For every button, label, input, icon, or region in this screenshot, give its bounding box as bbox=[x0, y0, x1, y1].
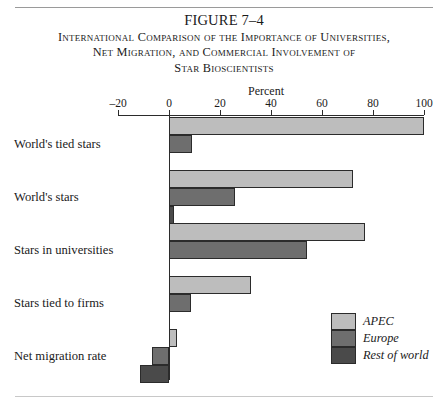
x-tick-label-6: 100 bbox=[415, 97, 432, 109]
category-label-3: Stars tied to firms bbox=[14, 296, 104, 311]
bar-apec-4 bbox=[169, 329, 177, 347]
x-tick-label-5: 80 bbox=[367, 97, 379, 109]
x-tick-label-3: 40 bbox=[265, 97, 277, 109]
x-tick-0 bbox=[118, 110, 119, 115]
x-axis-line bbox=[118, 115, 424, 116]
bar-europe-2 bbox=[169, 241, 307, 259]
bar-row-1 bbox=[169, 206, 174, 224]
legend-swatch-apec bbox=[331, 313, 356, 330]
x-tick-5 bbox=[373, 110, 374, 115]
bar-europe-1 bbox=[169, 188, 235, 206]
bar-europe-0 bbox=[169, 135, 192, 153]
legend-label-europe: Europe bbox=[363, 331, 399, 346]
category-label-0: World's tied stars bbox=[14, 137, 101, 152]
legend-label-apec: APEC bbox=[363, 314, 394, 329]
bar-europe-3 bbox=[169, 294, 191, 312]
legend-swatch-europe bbox=[331, 330, 356, 347]
bar-apec-1 bbox=[169, 170, 353, 188]
bar-apec-0 bbox=[169, 117, 424, 135]
x-tick-2 bbox=[220, 110, 221, 115]
x-tick-3 bbox=[271, 110, 272, 115]
category-label-1: World's stars bbox=[14, 190, 79, 205]
legend-label-rest-of-world: Rest of world bbox=[363, 348, 429, 363]
x-tick-1 bbox=[169, 110, 170, 115]
x-tick-label-0: –20 bbox=[109, 97, 126, 109]
x-tick-label-2: 20 bbox=[214, 97, 226, 109]
bar-row-4 bbox=[140, 365, 169, 383]
x-tick-6 bbox=[424, 110, 425, 115]
x-axis-title: Percent bbox=[42, 84, 448, 99]
bar-apec-2 bbox=[169, 223, 365, 241]
x-tick-4 bbox=[322, 110, 323, 115]
bar-europe-4 bbox=[152, 347, 169, 365]
category-label-4: Net migration rate bbox=[14, 349, 106, 364]
bar-apec-3 bbox=[169, 276, 251, 294]
chart-legend: APEC Europe Rest of world bbox=[331, 313, 429, 364]
x-tick-label-4: 60 bbox=[316, 97, 328, 109]
category-label-2: Stars in universities bbox=[14, 243, 113, 258]
x-tick-label-1: 0 bbox=[166, 97, 172, 109]
legend-swatch-rest-of-world bbox=[331, 347, 356, 364]
legend-item-apec: APEC bbox=[331, 313, 429, 330]
legend-item-europe: Europe bbox=[331, 330, 429, 347]
legend-item-rest-of-world: Rest of world bbox=[331, 347, 429, 364]
